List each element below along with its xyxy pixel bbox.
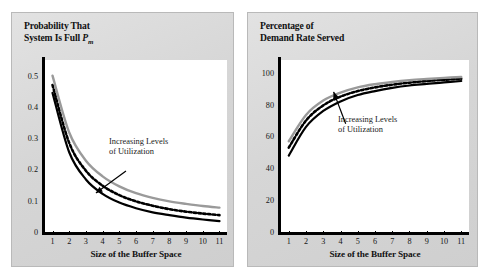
left-x-tick-label: 11 xyxy=(216,237,224,246)
left-x-tick-label: 2 xyxy=(67,237,71,246)
figure-root: Probability That System Is Full Pm 00.10… xyxy=(0,0,489,278)
left-x-tick-label: 7 xyxy=(151,237,155,246)
right-x-tick-label: 6 xyxy=(373,237,377,246)
right-x-tick-label: 2 xyxy=(304,237,308,246)
right-y-tick-label: 100 xyxy=(262,68,274,77)
right-y-tick-label: 20 xyxy=(266,196,274,205)
left-annotation-arrow-icon xyxy=(45,60,227,232)
left-chart-title-symbol: Pm xyxy=(82,32,93,43)
right-x-tick-label: 11 xyxy=(457,237,465,246)
left-x-tick-label: 4 xyxy=(101,237,105,246)
left-y-tick-label: 0.3 xyxy=(28,134,38,143)
left-x-tick-label: 9 xyxy=(184,237,188,246)
right-annotation-arrow-icon xyxy=(281,60,469,232)
left-chart-panel: Probability That System Is Full Pm 00.10… xyxy=(11,12,234,267)
annotation-arrow-head xyxy=(333,92,338,99)
left-y-tick-label: 0.1 xyxy=(28,196,38,205)
left-chart-title-line2: System Is Full Pm xyxy=(24,32,93,43)
left-x-tick-label: 5 xyxy=(117,237,121,246)
right-y-tick-label: 80 xyxy=(266,100,274,109)
left-chart-title-subscript: m xyxy=(88,38,93,46)
left-chart-title-line1: Probability That xyxy=(24,20,90,31)
right-x-tick-label: 4 xyxy=(338,237,342,246)
right-plot-wrapper: 020406080100 1234567891011 Increasing Le… xyxy=(281,60,469,232)
left-y-tick-label: 0.2 xyxy=(28,165,38,174)
right-chart-title-line1: Percentage of xyxy=(260,20,314,31)
left-x-tick-label: 1 xyxy=(50,237,54,246)
left-y-tick-label: 0 xyxy=(34,228,38,237)
right-x-tick-label: 10 xyxy=(440,237,448,246)
left-x-tick-label: 8 xyxy=(167,237,171,246)
right-x-tick-label: 7 xyxy=(390,237,394,246)
right-x-tick-label: 8 xyxy=(407,237,411,246)
right-chart-title-line2: Demand Rate Served xyxy=(260,32,344,43)
left-chart-title: Probability That System Is Full Pm xyxy=(24,20,93,48)
right-chart-panel: Percentage of Demand Rate Served 0204060… xyxy=(247,12,478,267)
right-x-axis-title: Size of the Buffer Space xyxy=(330,249,421,259)
right-x-tick-label: 5 xyxy=(356,237,360,246)
left-plot-wrapper: 00.10.20.30.40.5 1234567891011 Increasin… xyxy=(45,60,227,232)
left-y-tick-label: 0.5 xyxy=(28,71,38,80)
annotation-arrow-head xyxy=(96,187,103,193)
left-x-tick-label: 6 xyxy=(134,237,138,246)
right-y-tick-label: 0 xyxy=(270,228,274,237)
left-x-tick-label: 10 xyxy=(199,237,207,246)
right-y-tick-label: 60 xyxy=(266,132,274,141)
right-x-tick-label: 1 xyxy=(287,237,291,246)
left-y-tick-label: 0.4 xyxy=(28,102,38,111)
right-x-tick-label: 3 xyxy=(321,237,325,246)
right-chart-title: Percentage of Demand Rate Served xyxy=(260,20,344,44)
left-x-tick-label: 3 xyxy=(84,237,88,246)
right-x-tick-label: 9 xyxy=(425,237,429,246)
right-y-tick-label: 40 xyxy=(266,164,274,173)
left-x-axis-title: Size of the Buffer Space xyxy=(91,249,182,259)
